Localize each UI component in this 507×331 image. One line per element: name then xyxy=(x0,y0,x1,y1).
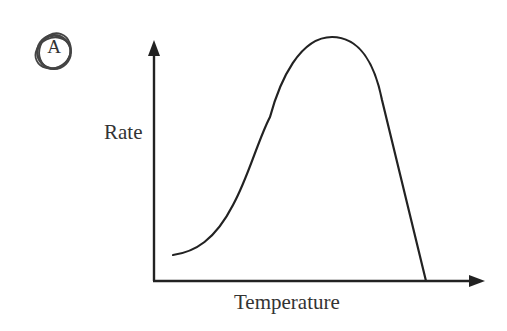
panel-badge-label: A xyxy=(38,36,70,58)
rate-curve xyxy=(173,37,426,281)
y-axis-label: Rate xyxy=(104,120,142,145)
rate-vs-temperature-diagram xyxy=(0,0,507,331)
y-axis-arrowhead xyxy=(148,40,160,56)
x-axis-arrowhead xyxy=(469,275,485,287)
x-axis-label: Temperature xyxy=(234,290,340,315)
